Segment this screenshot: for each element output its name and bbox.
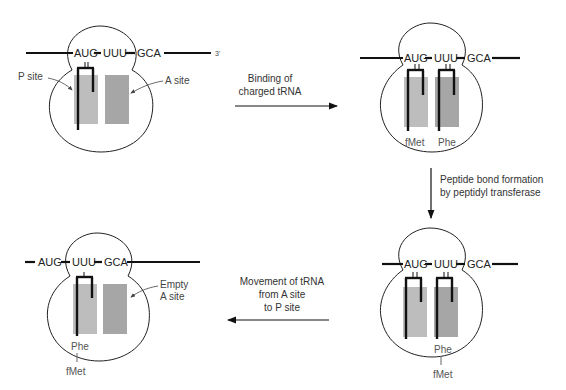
- a-site: [105, 75, 129, 124]
- p-site-label: P site: [18, 71, 43, 82]
- ribosome-peptide-bond: AUG UUU GCA Phe fMet: [380, 228, 518, 380]
- codon-aug: AUG: [404, 258, 428, 270]
- ribosome-bound: AUG UUU GCA fMet Phe: [360, 23, 520, 152]
- ribosome-outline: [49, 26, 152, 152]
- a-site: [103, 284, 127, 334]
- codon-aug: AUG: [74, 47, 98, 59]
- codon-uuu: UUU: [72, 256, 96, 268]
- label-phe: Phe: [438, 137, 456, 148]
- codon-gca: GCA: [467, 258, 492, 270]
- ribosome-outline: [380, 23, 482, 152]
- label-phe: Phe: [71, 341, 89, 352]
- label-fmet: fMet: [405, 137, 425, 148]
- label-fmet: fMet: [66, 366, 86, 377]
- movement-label-3: to P site: [264, 302, 300, 313]
- peptide-label-1: Peptide bond formation: [440, 174, 543, 185]
- label-fmet: fMet: [433, 369, 453, 380]
- translation-diagram: AUG UUU GCA 3' P site A site Binding of …: [0, 0, 566, 390]
- codon-gca: GCA: [467, 52, 492, 64]
- movement-label-1: Movement of tRNA: [240, 276, 325, 287]
- step-movement: Movement of tRNA from A site to P site: [228, 276, 329, 320]
- empty-site-label-2: A site: [160, 291, 185, 302]
- codon-gca: GCA: [137, 47, 162, 59]
- codon-gca: GCA: [104, 256, 129, 268]
- label-phe: Phe: [434, 344, 452, 355]
- binding-label-1: Binding of: [248, 73, 293, 84]
- codon-uuu: UUU: [103, 47, 127, 59]
- peptide-label-2: by peptidyl transferase: [440, 187, 541, 198]
- codon-aug: AUG: [404, 52, 428, 64]
- three-prime-label: 3': [215, 50, 220, 57]
- ribosome-outline: [380, 228, 482, 357]
- codon-uuu: UUU: [434, 52, 458, 64]
- step-binding: Binding of charged tRNA: [235, 73, 337, 106]
- codon-uuu: UUU: [434, 258, 458, 270]
- movement-label-2: from A site: [259, 289, 306, 300]
- ribosome-initial: AUG UUU GCA 3' P site A site: [18, 26, 220, 152]
- ribosome-outline: [47, 233, 149, 361]
- codon-aug: AUG: [38, 256, 62, 268]
- ribosome-translocated: AUG UUU GCA Empty A site Phe fMet: [25, 233, 200, 377]
- step-peptide-bond: Peptide bond formation by peptidyl trans…: [431, 168, 543, 218]
- binding-label-2: charged tRNA: [239, 86, 302, 97]
- empty-site-label-1: Empty: [160, 279, 188, 290]
- a-site-label: A site: [165, 75, 190, 86]
